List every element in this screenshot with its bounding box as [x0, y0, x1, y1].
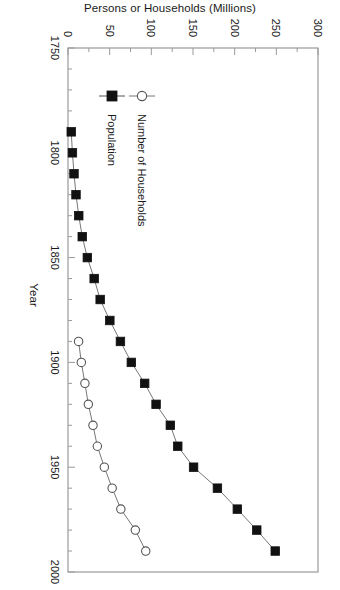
- data-point-marker: [96, 295, 105, 304]
- data-point-marker: [253, 526, 262, 535]
- data-point-marker: [166, 421, 175, 430]
- data-point-marker: [152, 400, 161, 409]
- x-tick-label: 1800: [49, 141, 61, 165]
- x-tick-label: 2000: [49, 560, 61, 584]
- data-point-marker: [271, 547, 280, 556]
- data-point-marker: [90, 274, 99, 283]
- x-tick-label: 1750: [49, 36, 61, 60]
- data-point-marker: [100, 463, 108, 471]
- chart-plot-area: 1750180018501900195020000501001502002503…: [0, 0, 340, 590]
- data-point-marker: [93, 442, 101, 450]
- data-point-marker: [116, 337, 125, 346]
- x-tick-label: 1850: [49, 245, 61, 269]
- data-point-marker: [78, 232, 87, 241]
- y-axis-title: Persons or Households (Millions): [84, 2, 256, 14]
- data-series-group: [67, 128, 280, 556]
- data-point-marker: [70, 170, 79, 179]
- y-tick-label: 250: [270, 0, 282, 37]
- x-tick-label: 1950: [49, 455, 61, 479]
- data-point-marker: [213, 484, 222, 493]
- data-point-marker: [140, 379, 149, 388]
- data-point-marker: [77, 358, 85, 366]
- data-point-marker: [75, 211, 84, 220]
- x-tick-label: 1900: [49, 350, 61, 374]
- data-point-marker: [108, 484, 116, 492]
- data-point-marker: [131, 526, 139, 534]
- data-point-marker: [72, 190, 81, 199]
- legend-label-population: Population: [106, 114, 118, 166]
- y-tick-label: 300: [312, 0, 324, 37]
- data-point-marker: [174, 442, 183, 451]
- data-point-marker: [68, 149, 77, 158]
- x-axis-title: Year: [28, 283, 40, 307]
- data-point-marker: [67, 128, 76, 137]
- data-point-marker: [89, 421, 97, 429]
- data-point-marker: [106, 316, 115, 325]
- y-tick-label: 0: [62, 0, 74, 37]
- legend-markers: [99, 91, 155, 101]
- data-point-marker: [233, 505, 242, 514]
- data-point-marker: [74, 337, 82, 345]
- data-point-marker: [142, 547, 150, 555]
- data-point-marker: [83, 253, 92, 262]
- data-point-marker: [84, 400, 92, 408]
- data-point-marker: [127, 358, 136, 367]
- data-point-marker: [81, 379, 89, 387]
- chart-canvas: [0, 0, 340, 590]
- legend-label-households: Number of Households: [136, 114, 148, 227]
- data-point-marker: [117, 505, 125, 513]
- rotated-page: 1750180018501900195020000501001502002503…: [0, 0, 340, 590]
- data-point-marker: [189, 463, 198, 472]
